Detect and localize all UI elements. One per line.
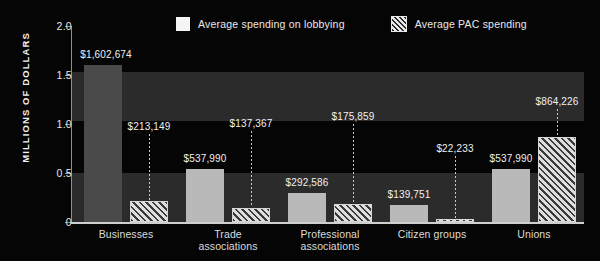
legend-item-lobbying[interactable]: Average spending on lobbying — [176, 17, 345, 31]
hatched-square-icon — [391, 16, 407, 32]
leader-line-unions-pac — [557, 109, 558, 136]
bar-group-unions: $537,990 $864,226 — [486, 26, 582, 222]
y-tick-1.0: 1.0 — [0, 124, 72, 125]
bar-label-citizen-lobbying: $139,751 — [359, 189, 459, 200]
leader-line-businesses-pac — [149, 134, 150, 200]
x-axis-label-businesses-line1: Businesses — [78, 228, 174, 240]
y-tick-2.0: 2.0 — [0, 26, 72, 27]
x-axis-label-professional-line1: Professional — [282, 228, 378, 240]
solid-square-icon — [176, 17, 190, 31]
legend-label-pac: Average PAC spending — [415, 18, 527, 30]
bar-chart: $1,602,674 $213,149 $537,990 $137,367 $2… — [0, 0, 600, 261]
x-axis-label-trade-line1: Trade — [180, 228, 276, 240]
y-tick-0: 0 — [0, 222, 72, 223]
x-axis-label-citizen-line1: Citizen groups — [384, 228, 480, 240]
plot-area: $1,602,674 $213,149 $537,990 $137,367 $2… — [72, 26, 584, 222]
legend: Average spending on lobbying Average PAC… — [176, 16, 527, 32]
x-axis-label-trade-associations: Trade associations — [180, 228, 276, 252]
bar-label-professional-lobbying: $292,586 — [257, 177, 357, 188]
y-tick-label-1.5: 1.5 — [36, 69, 72, 81]
bar-label-unions-pac: $864,226 — [507, 96, 600, 107]
y-tick-1.5: 1.5 — [0, 75, 72, 76]
x-axis-label-citizen-groups: Citizen groups — [384, 228, 480, 240]
bar-businesses-lobbying — [84, 65, 122, 222]
legend-item-pac[interactable]: Average PAC spending — [391, 16, 527, 32]
x-axis-line — [71, 222, 584, 224]
bar-professional-lobbying — [288, 193, 326, 222]
y-tick-0.5: 0.5 — [0, 173, 72, 174]
y-tick-label-1.0: 1.0 — [36, 118, 72, 130]
x-axis-label-unions-line1: Unions — [486, 228, 582, 240]
bar-unions-lobbying — [492, 169, 530, 222]
bar-group-businesses: $1,602,674 $213,149 — [78, 26, 174, 222]
bar-group-citizen-groups: $139,751 $22,233 — [384, 26, 480, 222]
bar-label-trade-lobbying: $537,990 — [155, 153, 255, 164]
bar-unions-pac — [538, 137, 576, 222]
y-tick-label-0.5: 0.5 — [36, 167, 72, 179]
leader-line-professional-pac — [353, 124, 354, 203]
y-tick-label-2.0: 2.0 — [36, 20, 72, 32]
x-axis-label-professional-line2: associations — [282, 240, 378, 252]
bar-citizen-lobbying — [390, 205, 428, 222]
x-axis-label-unions: Unions — [486, 228, 582, 240]
leader-line-trade-pac — [251, 131, 252, 207]
x-axis-label-businesses: Businesses — [78, 228, 174, 240]
y-axis-title: MILLIONS OF DOLLARS — [20, 28, 31, 168]
x-axis-label-professional-associations: Professional associations — [282, 228, 378, 252]
legend-label-lobbying: Average spending on lobbying — [198, 18, 345, 30]
bar-businesses-pac — [130, 201, 168, 222]
bar-group-trade-associations: $537,990 $137,367 — [180, 26, 276, 222]
bar-trade-pac — [232, 208, 270, 222]
y-tick-label-0: 0 — [36, 216, 72, 228]
leader-line-citizen-pac — [455, 156, 456, 218]
bar-professional-pac — [334, 204, 372, 222]
x-axis-label-trade-line2: associations — [180, 240, 276, 252]
bar-trade-lobbying — [186, 169, 224, 222]
